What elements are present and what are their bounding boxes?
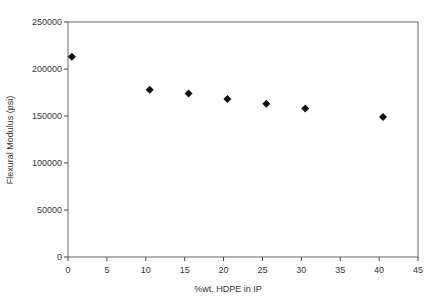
data-point-diamond xyxy=(68,53,76,61)
data-point-diamond xyxy=(262,100,270,108)
plot-area xyxy=(68,22,418,257)
y-axis: 050000100000150000200000250000 xyxy=(32,17,68,262)
y-tick-label: 150000 xyxy=(32,111,62,121)
x-tick-label: 25 xyxy=(257,265,267,275)
data-point-diamond xyxy=(223,95,231,103)
x-tick-label: 15 xyxy=(180,265,190,275)
x-axis: 051015202530354045 xyxy=(65,257,423,275)
data-series xyxy=(68,53,387,121)
y-tick-label: 100000 xyxy=(32,158,62,168)
y-tick-label: 0 xyxy=(57,252,62,262)
y-tick-label: 250000 xyxy=(32,17,62,27)
x-tick-label: 30 xyxy=(296,265,306,275)
data-point-diamond xyxy=(301,104,309,112)
y-axis-title: Flexural Modulus (psi) xyxy=(5,96,15,185)
x-axis-title: %wt. HDPE in IP xyxy=(194,284,262,294)
data-point-diamond xyxy=(379,113,387,121)
plot-border xyxy=(68,22,418,257)
x-tick-label: 10 xyxy=(141,265,151,275)
x-tick-label: 20 xyxy=(219,265,229,275)
scatter-chart: 050000100000150000200000250000 051015202… xyxy=(0,0,442,305)
y-tick-label: 50000 xyxy=(37,205,62,215)
data-point-diamond xyxy=(185,89,193,97)
x-tick-label: 5 xyxy=(104,265,109,275)
x-tick-label: 35 xyxy=(335,265,345,275)
x-tick-label: 40 xyxy=(374,265,384,275)
x-tick-label: 45 xyxy=(413,265,423,275)
data-point-diamond xyxy=(146,86,154,94)
y-tick-label: 200000 xyxy=(32,64,62,74)
x-tick-label: 0 xyxy=(65,265,70,275)
